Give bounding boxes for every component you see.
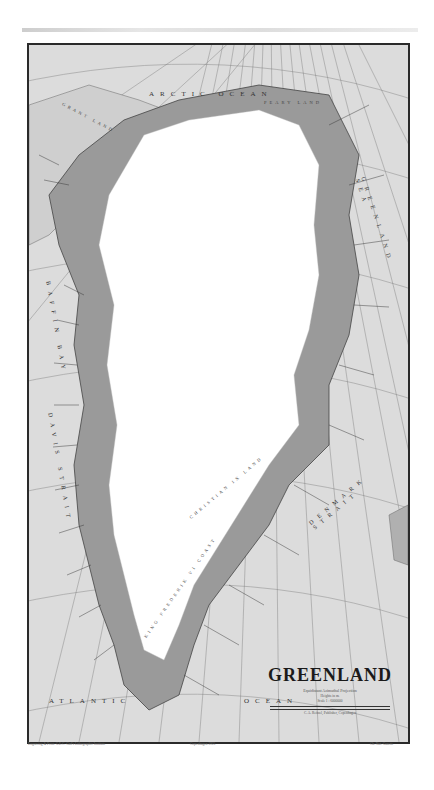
header-strip [22,28,418,32]
map-title: GREENLAND [250,665,410,686]
footer-center: Copenhagen 1925 [190,742,215,746]
label-atlantic: ATLANTIC [49,697,131,705]
map-heights-note: Heights in m. [250,694,410,698]
label-arctic-ocean: ARCTIC OCEAN [149,90,273,98]
footer-left: Engraving & Print: G.E.C. Gad's Lithogra… [28,742,105,746]
map-title-block: GREENLAND Equidistant Azimuthal Projecti… [250,665,410,715]
map-publisher: C. A. Reitzel, Publisher, Copenhagen [250,711,410,715]
label-peary-land: PEARY LAND [264,100,322,105]
map-projection: Equidistant Azimuthal Projection [250,688,410,693]
scale-bar [270,706,390,710]
map-scale: Scale 1 : 6000000 [250,699,410,703]
greenland-map-graphic [29,45,408,742]
footer-right: Ch. Nat. Gazette [370,742,393,746]
map-frame: ARCTIC OCEAN GRANT LAND PEARY LAND GREEN… [27,43,410,744]
map-sheet: ARCTIC OCEAN GRANT LAND PEARY LAND GREEN… [0,0,434,790]
